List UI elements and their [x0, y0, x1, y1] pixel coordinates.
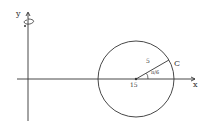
angle-arc: [147, 74, 149, 80]
rotation-dot: [24, 25, 26, 27]
circle-label: C: [174, 60, 180, 68]
diagram-canvas: y x C 5 π/6 15: [0, 0, 214, 128]
center-label: 15: [130, 82, 138, 88]
radius-label: 5: [146, 58, 150, 64]
angle-label: π/6: [151, 70, 159, 75]
y-axis-label: y: [16, 10, 21, 18]
x-axis-label: x: [193, 81, 198, 89]
rotation-arrow-icon: [24, 19, 33, 24]
diagram-svg: [0, 0, 214, 128]
